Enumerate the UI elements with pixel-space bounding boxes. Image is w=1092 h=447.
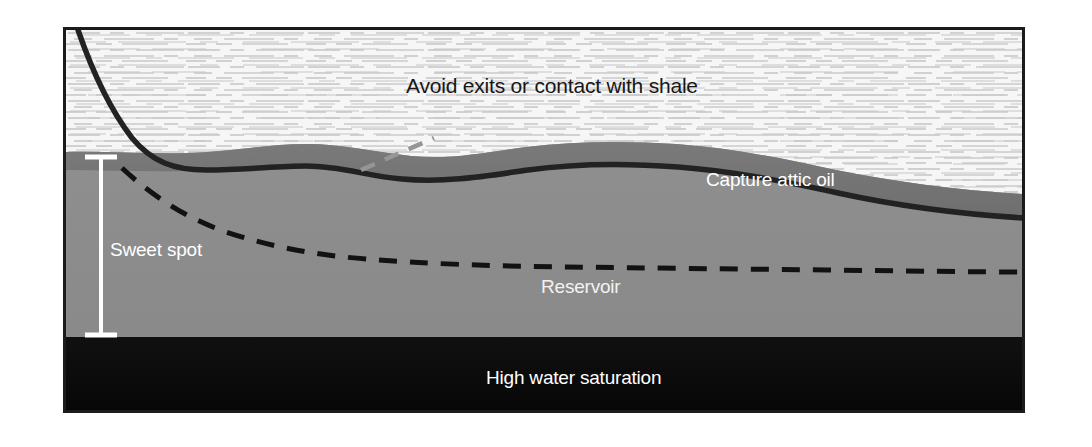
figure-page: Avoid exits or contact with shale Captur… <box>0 0 1092 447</box>
attic-oil-label: Capture attic oil <box>706 169 835 190</box>
cross-section-svg: Avoid exits or contact with shale Captur… <box>66 30 1022 410</box>
shale-layer-label: Avoid exits or contact with shale <box>406 74 698 97</box>
high-water-saturation-label: High water saturation <box>486 367 661 388</box>
sweet-spot-label: Sweet spot <box>110 239 203 260</box>
reservoir-label: Reservoir <box>541 276 621 297</box>
cross-section-figure-frame: Avoid exits or contact with shale Captur… <box>63 27 1025 413</box>
